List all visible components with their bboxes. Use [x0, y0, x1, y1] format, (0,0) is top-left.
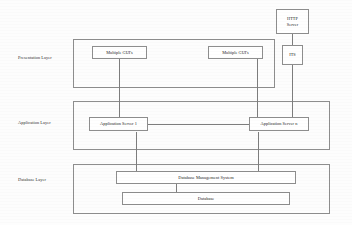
connector-gui-right-to-app-server-n [257, 58, 258, 118]
layer-caption-application: Application Layer [18, 121, 51, 125]
connector-gui-left-to-app-server-1 [119, 58, 120, 118]
dbms-label: Database Management System [178, 175, 233, 181]
node-database[interactable]: Database [122, 192, 290, 205]
database-label: Database [198, 196, 215, 202]
node-application-server-n[interactable]: Application Server n [249, 117, 309, 131]
node-http-server[interactable]: HTTP Server [276, 9, 309, 34]
gui-left-label: Multiple GUI's [106, 50, 133, 55]
application-server-1-label: Application Server 1 [100, 121, 137, 126]
gui-right-label: Multiple GUI's [222, 50, 249, 55]
connector-app-server-n-to-dbms [258, 132, 259, 175]
connector-app-server-1-to-dbms [136, 132, 137, 175]
node-application-server-1[interactable]: Application Server 1 [89, 117, 148, 131]
node-gui-right[interactable]: Multiple GUI's [208, 46, 263, 59]
node-gui-left[interactable]: Multiple GUI's [92, 46, 147, 59]
connector-dbms-to-database [176, 184, 177, 192]
architecture-diagram: Presentation Layer Application Layer Dat… [0, 0, 352, 225]
layer-caption-presentation: Presentation Layer [18, 56, 52, 60]
connector-app-server-peer-link [148, 124, 250, 125]
connector-its-to-app-server-n [292, 64, 293, 122]
node-its[interactable]: ITS [282, 45, 303, 65]
its-label: ITS [289, 52, 296, 57]
application-server-n-label: Application Server n [261, 121, 298, 126]
http-server-label-line2: Server [287, 22, 299, 27]
node-dbms[interactable]: Database Management System [116, 171, 296, 184]
layer-caption-database: Database Layer [18, 178, 46, 182]
